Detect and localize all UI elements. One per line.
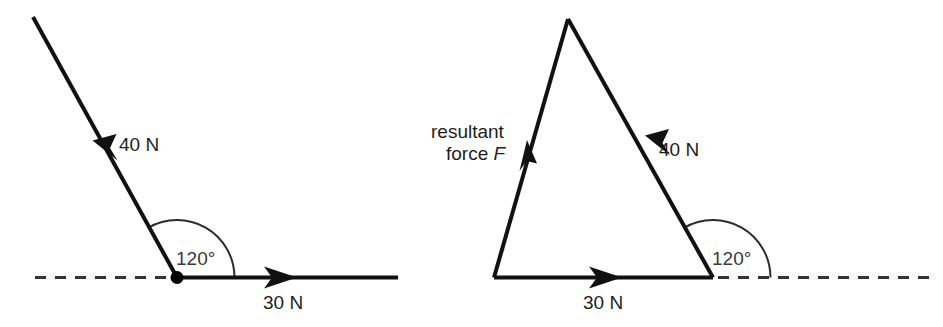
force-30n-label-right: 30 N [583, 292, 623, 313]
force-30n-label-left: 30 N [263, 292, 303, 313]
resultant-force-label-line2: force F [446, 143, 507, 164]
resultant-force-label-prefix: force [446, 143, 494, 164]
angle-label-left: 120° [176, 248, 215, 269]
angle-label-right: 120° [712, 248, 751, 269]
resultant-force-label-line1: resultant [431, 121, 505, 142]
force-40n-label-left: 40 N [119, 134, 159, 155]
force-40n-arrowhead-left [93, 134, 118, 161]
resultant-force-symbol: F [494, 143, 507, 164]
resultant-force-arrowhead-right [520, 140, 538, 171]
panel-right: 40 N 30 N 120° resultant force F [431, 19, 931, 313]
figure-canvas: 40 N 30 N 120° 40 N 30 N 120° resultant [0, 0, 943, 327]
panel-left: 40 N 30 N 120° [33, 17, 398, 313]
force-diagram-figure: 40 N 30 N 120° 40 N 30 N 120° resultant [0, 0, 943, 327]
pivot-point-dot-left [171, 271, 184, 284]
force-40n-label-right: 40 N [659, 139, 699, 160]
